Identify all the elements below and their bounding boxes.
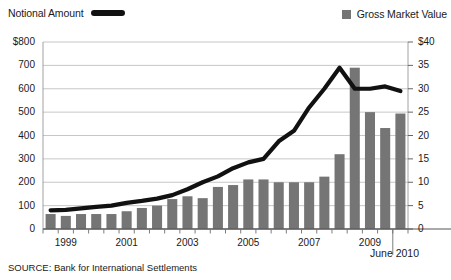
bar [137,208,147,229]
right-axis-ticks [408,42,413,229]
y-axis-right-tick-label: 5 [418,201,424,211]
bar [152,206,162,229]
y-axis-left-tick-label: 500 [0,107,35,117]
y-axis-left-tick-label: 200 [0,177,35,187]
x-axis-tick-label: 2001 [105,238,149,248]
bar [122,211,132,229]
x-axis-tick-label: 2007 [287,238,331,248]
bar [395,114,405,229]
y-axis-right-tick-label: 25 [418,107,429,117]
x-axis-tick-label: 2003 [165,238,209,248]
y-axis-left-tick-label: 700 [0,60,35,70]
y-axis-right-tick-label: 35 [418,60,429,70]
bar [182,196,192,229]
bar [350,68,360,229]
x-axis-tick-label: 1999 [44,238,88,248]
bar [213,187,223,229]
bar [335,154,345,229]
y-axis-left-tick-label: 0 [0,224,35,234]
bar [380,128,390,229]
bar [289,182,299,229]
bar [76,214,86,229]
source-note: SOURCE: Bank for International Settlemen… [8,263,197,273]
y-axis-left-tick-label: 100 [0,201,35,211]
bar [319,177,329,229]
bar [259,179,269,229]
y-axis-right-tick-label: 0 [418,224,424,234]
bar [228,185,238,229]
y-axis-right-tick-label: 30 [418,84,429,94]
y-axis-left-tick-label: $800 [0,37,35,47]
bar [46,214,56,229]
x-axis-end-label: June 2010 [370,248,419,259]
x-axis-tick-label: 2005 [226,238,270,248]
bar [304,182,314,229]
bar [167,199,177,229]
y-axis-right-tick-label: 10 [418,177,429,187]
bar [91,214,101,229]
chart-container: Notional Amount Gross Market Value 01002… [0,0,451,280]
y-axis-left-tick-label: 300 [0,154,35,164]
y-axis-right-tick-label: $40 [418,37,435,47]
y-axis-left-tick-label: 400 [0,131,35,141]
y-axis-right-tick-label: 15 [418,154,429,164]
y-axis-right-tick-label: 20 [418,131,429,141]
bar [61,216,71,229]
bar [198,198,208,229]
y-axis-left-tick-label: 600 [0,84,35,94]
bar [365,112,375,229]
bar [274,182,284,229]
bar [243,179,253,229]
bar [106,214,116,229]
